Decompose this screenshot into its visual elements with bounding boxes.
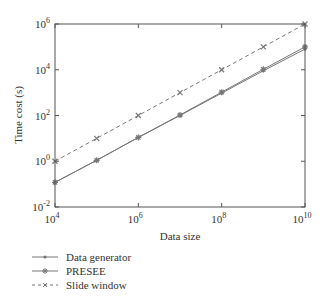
legend-label: Data generator <box>66 251 131 263</box>
axes: 10-21001021041061041061081010 <box>32 16 311 225</box>
solid-star-line-icon <box>30 266 60 276</box>
y-tick-label: 106 <box>35 16 50 30</box>
y-tick-label: 104 <box>35 62 50 76</box>
y-tick-label: 10-2 <box>32 199 50 213</box>
legend-label: PRESEE <box>66 265 106 277</box>
legend: Data generator PRESEE Slide window <box>30 250 131 292</box>
y-tick-label: 100 <box>35 153 50 167</box>
solid-dot-line-icon <box>30 252 60 262</box>
legend-item-data-generator: Data generator <box>30 250 131 264</box>
chart-canvas: 10-21001021041061041061081010 Data size … <box>0 0 330 250</box>
x-tick-label: 106 <box>128 211 143 225</box>
x-tick-label: 1010 <box>293 211 312 225</box>
y-axis-title: Time cost (s) <box>12 86 25 144</box>
legend-item-slide-window: Slide window <box>30 278 131 292</box>
plot-area <box>52 22 308 186</box>
legend-item-presee: PRESEE <box>30 264 131 278</box>
x-axis-title: Data size <box>160 230 201 242</box>
x-tick-label: 108 <box>211 211 226 225</box>
x-tick-label: 104 <box>45 211 60 225</box>
y-tick-label: 102 <box>35 108 50 122</box>
legend-label: Slide window <box>66 279 127 291</box>
dashed-x-line-icon <box>30 280 60 290</box>
